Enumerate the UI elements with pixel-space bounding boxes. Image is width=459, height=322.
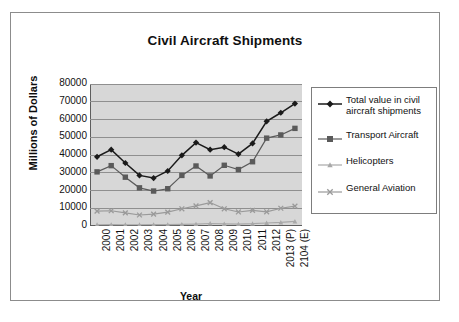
legend-item[interactable]: General Aviation <box>317 183 416 196</box>
x-axis-tick-label: 2007 <box>200 229 211 251</box>
x-axis-tick-label: 2010 <box>242 229 253 251</box>
plot-series-svg <box>90 84 302 226</box>
x-axis-tick-label: 2013 (P) <box>285 229 296 267</box>
y-axis-tick-label: 20000 <box>35 184 87 195</box>
square-marker-icon <box>317 131 343 143</box>
triangle-marker-icon <box>317 157 343 169</box>
x-axis-tick-label: 2008 <box>214 229 225 251</box>
y-axis-tick-label: 70000 <box>35 95 87 106</box>
x-axis-title: Year <box>81 290 301 302</box>
chart-title: Civil Aircraft Shipments <box>11 33 439 48</box>
x-axis-tick-label: 2104 (E) <box>299 229 310 267</box>
diamond-marker-icon <box>317 96 343 108</box>
y-axis-tick-label: 50000 <box>35 130 87 141</box>
y-axis-tick-label: 10000 <box>35 201 87 212</box>
y-axis-tick-label: 40000 <box>35 148 87 159</box>
x-axis-tick-label: 2005 <box>172 229 183 251</box>
cross-marker-icon <box>317 184 343 196</box>
plot-wrapper <box>90 84 302 226</box>
x-axis-tick-label: 2006 <box>186 229 197 251</box>
legend-item-label: General Aviation <box>346 183 416 194</box>
x-axis-tick-label: 2001 <box>115 229 126 251</box>
legend-item-label: Total value in civil aircraft shipments <box>346 95 436 116</box>
x-axis-tick-labels: 2000200120022003200420052006200720082009… <box>90 229 302 289</box>
x-axis-tick-label: 2004 <box>158 229 169 251</box>
y-axis-tick-label: 80000 <box>35 77 87 88</box>
x-axis-tick-label: 2009 <box>228 229 239 251</box>
x-axis-tick-label: 2000 <box>101 229 112 251</box>
x-axis-tick-label: 2002 <box>129 229 140 251</box>
legend-item[interactable]: Total value in civil aircraft shipments <box>317 95 436 116</box>
x-axis-tick-label: 2012 <box>271 229 282 251</box>
legend-item-label: Transport Aircraft <box>346 130 419 141</box>
legend-item-label: Helicopters <box>346 156 394 167</box>
x-axis-tick-label: 2003 <box>143 229 154 251</box>
y-axis-tick-labels: 8000070000600005000040000300002000010000… <box>31 84 87 226</box>
y-axis-tick-label: 60000 <box>35 113 87 124</box>
chart-frame: Civil Aircraft Shipments Millions of Dol… <box>10 12 440 301</box>
y-axis-tick-label: 30000 <box>35 166 87 177</box>
x-axis-tick-label: 2011 <box>257 229 268 251</box>
legend-item[interactable]: Transport Aircraft <box>317 130 419 143</box>
chart-legend: Total value in civil aircraft shipmentsT… <box>311 87 437 214</box>
legend-item[interactable]: Helicopters <box>317 156 394 169</box>
y-axis-tick-label: 0 <box>35 219 87 230</box>
background-ghost-text-line2 <box>77 47 81 62</box>
